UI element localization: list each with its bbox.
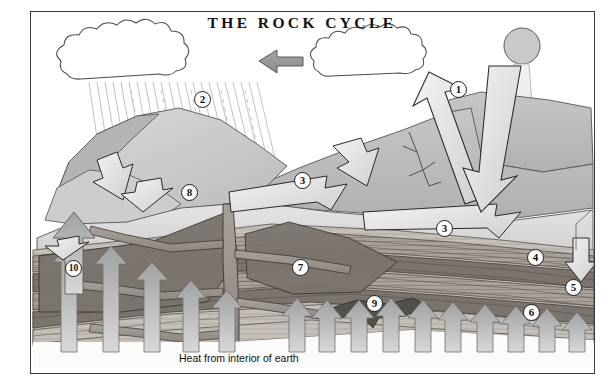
callout-10[interactable]: 10: [65, 260, 82, 277]
page-title: THE ROCK CYCLE: [0, 14, 604, 32]
sun-icon: [504, 28, 540, 64]
callout-4[interactable]: 4: [527, 249, 544, 266]
callout-3b[interactable]: 3: [436, 220, 453, 237]
callout-9[interactable]: 9: [366, 295, 383, 312]
figure-frame: 1 2 3 3 4 5 6 7 8 9 10 Heat from interio…: [30, 11, 595, 374]
rock-cycle-figure: THE ROCK CYCLE: [0, 0, 604, 385]
callout-1[interactable]: 1: [450, 81, 467, 98]
heat-caption: Heat from interior of earth: [179, 352, 299, 364]
callout-7[interactable]: 7: [292, 259, 309, 276]
callout-3a[interactable]: 3: [294, 172, 311, 189]
callout-8[interactable]: 8: [181, 184, 198, 201]
callout-5[interactable]: 5: [565, 279, 582, 296]
callout-2[interactable]: 2: [194, 91, 211, 108]
scene-illustration: [31, 12, 595, 374]
callout-6[interactable]: 6: [523, 304, 540, 321]
